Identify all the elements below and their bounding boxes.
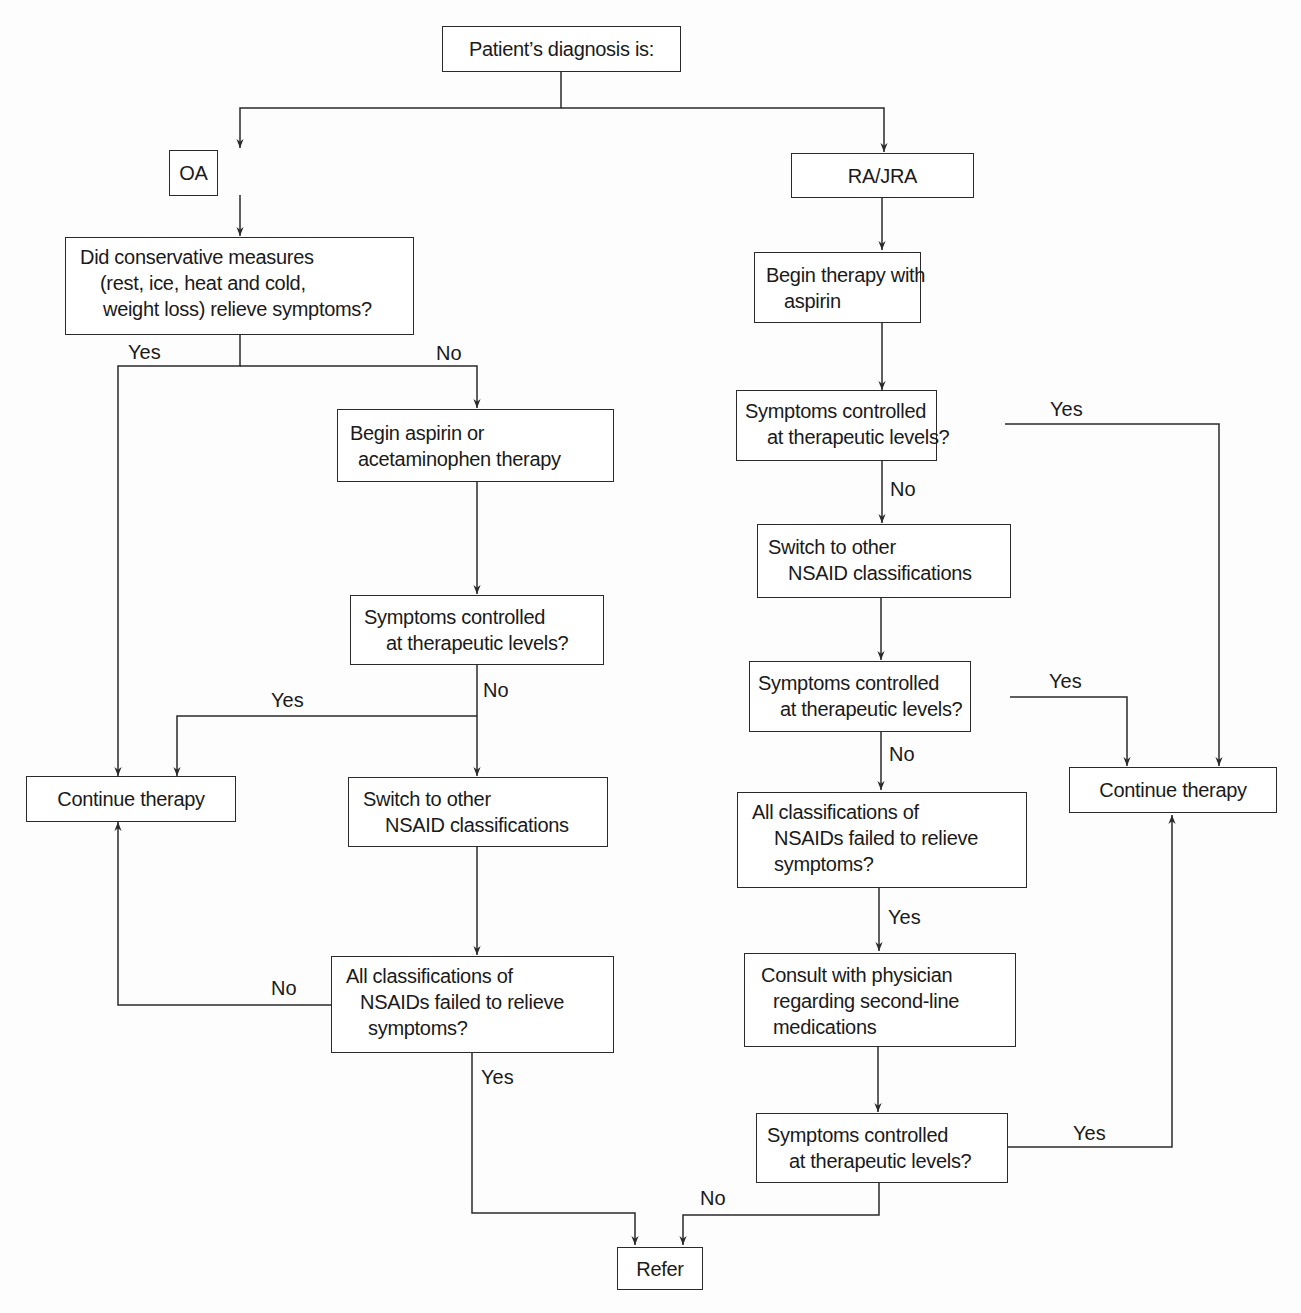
- node-refer: Refer: [617, 1247, 703, 1290]
- node-ra-switch-nsaid: Switch to other NSAID classifications: [757, 524, 1011, 598]
- node-line: Symptoms controlled: [745, 398, 936, 424]
- node-ra-begin-aspirin: Begin therapy with aspirin: [754, 252, 921, 323]
- node-oa: OA: [169, 150, 218, 196]
- node-line: (rest, ice, heat and cold,: [80, 270, 413, 296]
- node-line: Switch to other: [768, 534, 1010, 560]
- node-line: NSAIDs failed to relieve: [346, 989, 613, 1015]
- node-ra: RA/JRA: [791, 153, 974, 198]
- node-line: Consult with physician: [761, 962, 1015, 988]
- edge-label-no: No: [889, 743, 915, 766]
- node-ra-symptoms-controlled-2: Symptoms controlled at therapeutic level…: [749, 661, 971, 732]
- edge-label-no: No: [483, 679, 509, 702]
- node-line: at therapeutic levels?: [364, 630, 603, 656]
- edge-label-no: No: [890, 478, 916, 501]
- node-line: All classifications of: [752, 799, 1026, 825]
- node-oa-continue-therapy: Continue therapy: [26, 776, 236, 822]
- edge-label-yes: Yes: [1049, 670, 1082, 693]
- node-ra-continue-therapy: Continue therapy: [1069, 767, 1277, 813]
- node-ra-symptoms-controlled-3: Symptoms controlled at therapeutic level…: [756, 1113, 1008, 1183]
- node-line: NSAID classifications: [363, 812, 607, 838]
- node-line: at therapeutic levels?: [758, 696, 970, 722]
- node-line: regarding second-line: [761, 988, 1015, 1014]
- node-oa-continue-text: Continue therapy: [57, 786, 205, 812]
- node-line: medications: [761, 1014, 1015, 1040]
- node-refer-text: Refer: [636, 1256, 683, 1282]
- connector-lines: [0, 0, 1301, 1313]
- edge-label-yes: Yes: [271, 689, 304, 712]
- node-ra-text: RA/JRA: [848, 163, 917, 189]
- node-line: at therapeutic levels?: [767, 1148, 1007, 1174]
- node-line: Did conservative measures: [80, 244, 413, 270]
- edge-label-no: No: [436, 342, 462, 365]
- node-root-text: Patient’s diagnosis is:: [469, 36, 654, 62]
- node-oa-all-nsaids-failed: All classifications of NSAIDs failed to …: [331, 956, 614, 1053]
- node-line: symptoms?: [752, 851, 1026, 877]
- node-line: symptoms?: [346, 1015, 613, 1041]
- node-line: acetaminophen therapy: [350, 446, 613, 472]
- node-line: NSAID classifications: [768, 560, 1010, 586]
- node-line: Switch to other: [363, 786, 607, 812]
- edge-label-no: No: [271, 977, 297, 1000]
- node-line: Symptoms controlled: [758, 670, 970, 696]
- node-ra-continue-text: Continue therapy: [1099, 777, 1247, 803]
- edge-label-yes: Yes: [1073, 1122, 1106, 1145]
- node-ra-symptoms-controlled-1: Symptoms controlled at therapeutic level…: [736, 390, 937, 461]
- node-line: Begin therapy with: [766, 262, 920, 288]
- node-oa-switch-nsaid: Switch to other NSAID classifications: [348, 777, 608, 847]
- node-ra-all-nsaids-failed: All classifications of NSAIDs failed to …: [737, 792, 1027, 888]
- edge-label-yes: Yes: [1050, 398, 1083, 421]
- flowchart-canvas: Patient’s diagnosis is: OA RA/JRA Did co…: [0, 0, 1301, 1313]
- node-line: at therapeutic levels?: [745, 424, 936, 450]
- edge-label-no: No: [700, 1187, 726, 1210]
- edge-label-yes: Yes: [128, 341, 161, 364]
- node-oa-begin-aspirin: Begin aspirin or acetaminophen therapy: [337, 409, 614, 482]
- node-line: NSAIDs failed to relieve: [752, 825, 1026, 851]
- node-line: aspirin: [766, 288, 920, 314]
- node-oa-symptoms-controlled: Symptoms controlled at therapeutic level…: [350, 595, 604, 665]
- node-line: Symptoms controlled: [767, 1122, 1007, 1148]
- node-root: Patient’s diagnosis is:: [442, 26, 681, 72]
- edge-label-yes: Yes: [888, 906, 921, 929]
- node-line: All classifications of: [346, 963, 613, 989]
- edge-label-yes: Yes: [481, 1066, 514, 1089]
- node-oa-text: OA: [179, 160, 207, 186]
- node-line: Begin aspirin or: [350, 420, 613, 446]
- node-line: weight loss) relieve symptoms?: [80, 296, 413, 322]
- node-line: Symptoms controlled: [364, 604, 603, 630]
- node-ra-consult-physician: Consult with physician regarding second-…: [744, 953, 1016, 1047]
- node-oa-conservative-measures: Did conservative measures (rest, ice, he…: [65, 237, 414, 335]
